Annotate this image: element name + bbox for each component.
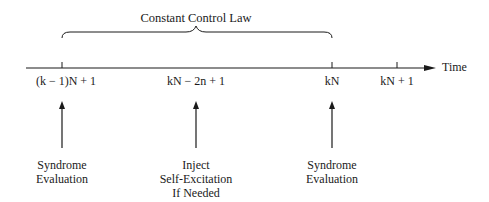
- tick-label: kN − 2n + 1: [167, 74, 225, 88]
- event-label: Inject Self-Excitation If Needed: [160, 158, 233, 200]
- arrow-up-icon: [329, 101, 335, 109]
- event-arrows: [59, 101, 335, 148]
- axis-label: Time: [442, 60, 467, 74]
- tick-label: (k − 1)N + 1: [36, 74, 96, 88]
- tick-label: kN + 1: [380, 74, 413, 88]
- axis-arrowhead-icon: [424, 65, 436, 71]
- tick-label: kN: [325, 74, 340, 88]
- event-label: Syndrome Evaluation: [36, 158, 88, 186]
- brace: [62, 26, 332, 38]
- event-label: Syndrome Evaluation: [306, 158, 358, 186]
- brace-label: Constant Control Law: [140, 11, 251, 25]
- arrow-up-icon: [193, 101, 199, 109]
- arrow-up-icon: [59, 101, 65, 109]
